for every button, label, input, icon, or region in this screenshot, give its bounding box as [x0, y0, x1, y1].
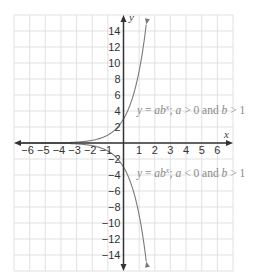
curve-negative-a [19, 143, 147, 261]
x-tick-label: −4 [53, 144, 66, 156]
y-tick-label: 2 [114, 121, 120, 133]
x-tick-label: 6 [214, 144, 220, 156]
y-tick-label: 12 [108, 41, 120, 53]
x-tick-label: −3 [68, 144, 81, 156]
x-axis-left-arrow-icon [14, 140, 21, 146]
y-tick-label: 8 [114, 73, 120, 85]
x-tick-label: 3 [167, 144, 173, 156]
x-axis-right-arrow-icon [226, 140, 233, 146]
y-tick-label: −10 [102, 217, 121, 229]
x-tick-label: −5 [37, 144, 50, 156]
y-tick-label: −12 [102, 233, 121, 245]
y-tick-label: −2 [108, 153, 121, 165]
y-tick-label: −6 [108, 185, 121, 197]
curve-down-arrow-icon [144, 261, 150, 268]
exponential-graph: −6−5−4−3−2−11234561412108642−2−4−6−8−10−… [0, 0, 275, 280]
axes [14, 15, 233, 271]
curve-positive-a [19, 25, 147, 143]
curve-up-arrow-icon [144, 18, 150, 25]
y-tick-label: −14 [102, 249, 121, 261]
equation-lower: y = abx; a < 0 and b > 1 [136, 166, 246, 180]
y-tick-label: 6 [114, 89, 120, 101]
y-axis-down-arrow-icon [121, 264, 127, 271]
y-tick-label: −4 [108, 169, 121, 181]
x-tick-label: 5 [199, 144, 205, 156]
y-tick-label: 14 [108, 25, 120, 37]
x-axis-label: x [223, 128, 229, 140]
equation-upper: y = abx; a > 0 and b > 1 [136, 103, 246, 117]
x-tick-label: 1 [136, 144, 142, 156]
x-tick-label: −6 [21, 144, 34, 156]
x-tick-label: 4 [183, 144, 189, 156]
y-tick-label: −8 [108, 201, 121, 213]
y-tick-label: 10 [108, 57, 120, 69]
y-axis-up-arrow-icon [121, 15, 127, 22]
y-tick-label: 4 [114, 105, 120, 117]
x-tick-label: 2 [152, 144, 158, 156]
x-tick-label: −2 [84, 144, 97, 156]
y-axis-label: y [128, 11, 134, 23]
